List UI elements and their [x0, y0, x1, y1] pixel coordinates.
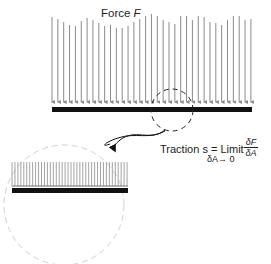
limit-subscript: δA→ 0 [207, 154, 235, 164]
zoomed-surface-bar [12, 188, 128, 193]
surface-bar [52, 107, 252, 112]
force-label: Force F [101, 7, 141, 19]
force-label-text: Force [101, 7, 130, 19]
fraction-numerator: δF [244, 137, 258, 148]
fraction-denominator: δA [244, 148, 258, 158]
force-variable: F [134, 7, 141, 19]
zoomed-force-arrows [12, 162, 128, 186]
curved-pointer-line [105, 131, 165, 145]
diagram-canvas [0, 0, 271, 264]
curved-pointer-arrow-icon [114, 130, 165, 149]
traction-diagram: Force F Traction s = Limit δA→ 0 δF δA [0, 0, 271, 264]
force-arrows [52, 14, 251, 102]
fraction: δF δA [244, 137, 258, 158]
